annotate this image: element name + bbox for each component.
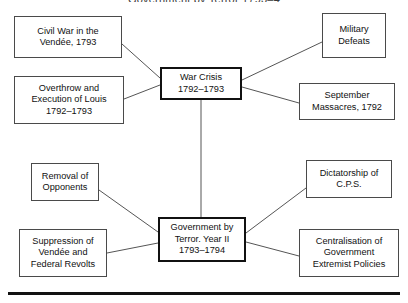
node-suppression-vendee-federal-revolts[interactable]: Suppression of Vendée and Federal Revolt… (19, 229, 107, 277)
connector-edge-warcrisis-military (242, 42, 322, 80)
node-label: Overthrow and Execution of Louis 1792–17… (31, 83, 106, 117)
node-label: Military Defeats (338, 24, 370, 47)
node-label: Removal of Opponents (42, 171, 88, 194)
diagram-page: Government by Terror 1793–4 Civil War in… (0, 0, 408, 303)
node-label: Civil War in the Vendée, 1793 (37, 26, 98, 49)
node-label: Dictatorship of C.P.S. (320, 168, 379, 191)
node-september-massacres[interactable]: September Massacres, 1792 (299, 83, 395, 120)
node-label: September Massacres, 1792 (312, 90, 382, 113)
node-label: Suppression of Vendée and Federal Revolt… (31, 236, 95, 270)
node-dictatorship-cps[interactable]: Dictatorship of C.P.S. (306, 160, 392, 198)
node-centralisation-government[interactable]: Centralisation of Government Extremist P… (299, 229, 399, 277)
node-civil-war-vendee[interactable]: Civil War in the Vendée, 1793 (14, 16, 122, 58)
node-government-by-terror[interactable]: Government by Terror. Year II 1793–1794 (158, 217, 246, 262)
connector-edge-overthrow-warcrisis (124, 85, 160, 99)
connector-edge-terror-centralisation (246, 242, 299, 256)
connector-edge-civilwar-warcrisis (122, 44, 160, 78)
connector-edge-terror-dictatorship (246, 188, 306, 233)
connector-edge-suppression-terror (107, 243, 158, 253)
node-label: Government by Terror. Year II 1793–1794 (171, 222, 234, 256)
node-label: War Crisis 1792–1793 (178, 72, 224, 95)
connector-edge-warcrisis-september (242, 87, 299, 103)
node-overthrow-execution-louis[interactable]: Overthrow and Execution of Louis 1792–17… (14, 76, 124, 124)
bottom-rule (8, 292, 400, 295)
node-military-defeats[interactable]: Military Defeats (322, 13, 386, 58)
node-label: Centralisation of Government Extremist P… (313, 236, 386, 270)
node-war-crisis[interactable]: War Crisis 1792–1793 (160, 67, 242, 100)
node-removal-of-opponents[interactable]: Removal of Opponents (31, 163, 99, 201)
connector-edge-removal-terror (99, 190, 158, 232)
